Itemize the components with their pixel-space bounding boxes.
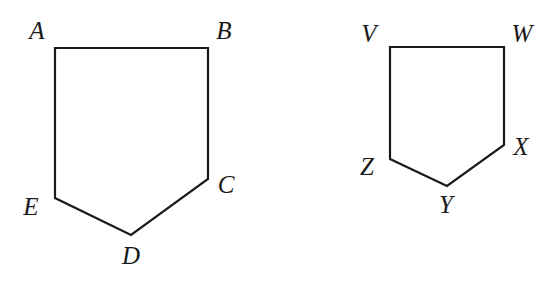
vertex-label-b: B bbox=[216, 17, 231, 44]
pentagon-vwxyz: V W X Y Z bbox=[360, 20, 535, 218]
pentagon-vwxyz-outline bbox=[390, 47, 504, 186]
vertex-label-c: C bbox=[218, 171, 235, 198]
pentagon-abcde-outline bbox=[55, 48, 208, 235]
vertex-label-y: Y bbox=[439, 191, 456, 218]
vertex-label-z: Z bbox=[360, 153, 375, 180]
similar-pentagons-diagram: A B C D E V W X Y Z bbox=[0, 0, 556, 290]
vertex-label-d: D bbox=[121, 242, 140, 269]
pentagon-abcde: A B C D E bbox=[22, 17, 234, 269]
vertex-label-w: W bbox=[512, 20, 535, 47]
vertex-label-v: V bbox=[361, 20, 379, 47]
vertex-label-a: A bbox=[27, 17, 45, 44]
vertex-label-x: X bbox=[512, 133, 530, 160]
vertex-label-e: E bbox=[22, 193, 38, 220]
